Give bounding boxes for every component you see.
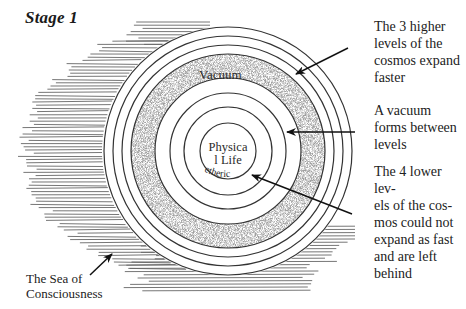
- hatch-stroke: [23, 127, 105, 128]
- hatch-stroke: [35, 99, 113, 100]
- physical-life-label-1: Physica: [209, 140, 248, 154]
- hatch-stroke: [34, 124, 105, 125]
- hatch-stroke: [32, 108, 109, 109]
- hatch-stroke: [34, 153, 102, 154]
- hatch-stroke: [26, 159, 102, 160]
- hatch-stroke: [83, 60, 142, 61]
- hatch-stroke: [36, 201, 113, 202]
- hatch-stroke: [29, 185, 107, 186]
- hatch-stroke: [29, 140, 103, 141]
- hatch-stroke: [124, 287, 308, 288]
- hatch-stroke: [44, 214, 119, 215]
- hatch-stroke: [26, 162, 102, 163]
- vacuum-label: Vacuum: [199, 67, 242, 82]
- hatch-stroke: [23, 134, 104, 135]
- hatch-stroke: [38, 92, 116, 93]
- hatch-stroke: [37, 111, 108, 112]
- annotation-vacuum-forms: A vacuum forms between levels: [374, 102, 457, 153]
- hatch-stroke: [149, 281, 312, 282]
- hatch-stroke: [68, 236, 137, 237]
- hatch-stroke: [98, 255, 159, 256]
- hatch-stroke: [130, 284, 311, 285]
- hatch-stroke: [142, 290, 310, 291]
- hatch-stroke: [99, 51, 153, 52]
- hatch-stroke: [35, 96, 115, 97]
- annotation-higher-levels: The 3 higher levels of the cosmos expand…: [374, 18, 460, 86]
- hatch-stroke: [88, 57, 145, 58]
- hatch-stroke: [60, 224, 126, 225]
- hatch-stroke: [26, 188, 107, 189]
- hatch-stroke: [20, 136, 103, 137]
- annotation-lower-levels: The 4 lower lev- els of the cos- mos cou…: [374, 163, 466, 282]
- physical-life-label-2: l Life: [214, 153, 242, 167]
- hatch-stroke: [138, 277, 303, 278]
- hatch-stroke: [78, 233, 134, 234]
- hatch-stroke: [67, 64, 138, 65]
- hatch-stroke: [36, 105, 111, 106]
- hatch-stroke: [36, 175, 105, 176]
- hatch-stroke: [32, 101, 112, 102]
- diagram-stage: Stage 1: [0, 0, 466, 309]
- hatch-stroke: [52, 80, 124, 81]
- hatch-stroke: [27, 166, 103, 167]
- hatch-stroke: [80, 242, 143, 243]
- hatch-stroke: [64, 229, 131, 230]
- annotation-sea-of-consciousness: The Sea of Consciousness: [26, 271, 103, 301]
- hatch-stroke: [47, 89, 118, 90]
- hatch-stroke: [25, 150, 102, 151]
- hatch-stroke: [30, 204, 114, 205]
- hatch-stroke: [46, 220, 123, 221]
